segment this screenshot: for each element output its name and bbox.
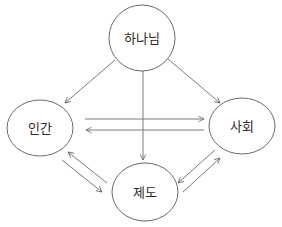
- node-institution: 제도: [112, 163, 178, 221]
- node-society: 사회: [209, 98, 275, 154]
- node-human-label: 인간: [28, 121, 52, 136]
- relationship-diagram: 하나님 인간 사회 제도: [0, 0, 282, 227]
- arrow-god-to-society: [168, 59, 220, 103]
- arrow-society-to-institution: [178, 150, 215, 183]
- node-institution-label: 제도: [133, 185, 157, 200]
- node-society-label: 사회: [230, 119, 254, 134]
- node-god: 하나님: [109, 5, 175, 71]
- arrow-god-to-human: [65, 60, 115, 103]
- arrow-institution-to-society: [183, 158, 220, 192]
- node-god-label: 하나님: [124, 31, 160, 46]
- arrow-institution-to-human: [68, 152, 107, 183]
- arrow-human-to-institution: [62, 160, 102, 192]
- node-human: 인간: [7, 100, 73, 156]
